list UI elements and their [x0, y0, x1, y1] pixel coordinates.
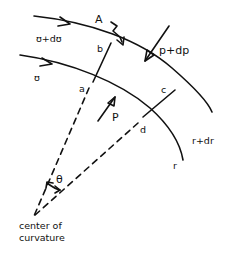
label-radius-inner: r: [173, 160, 177, 171]
label-corner-d: d: [140, 124, 146, 135]
label-center-line2: curvature: [19, 232, 65, 243]
label-corner-c: c: [161, 84, 166, 95]
label-center-line1: center of: [19, 220, 62, 231]
radial-line-a: [34, 88, 89, 216]
label-pressure-outer: p+dp: [159, 44, 189, 57]
label-pressure-inner: P: [112, 111, 119, 124]
streamline-diagram: A ʊ+dʊ ʊ b a c d P p+dp r+dr r θ center …: [0, 0, 234, 261]
label-area: A: [95, 13, 103, 26]
label-corner-a: a: [79, 83, 85, 94]
inner-streamline: [20, 55, 183, 160]
label-corner-b: b: [97, 43, 103, 54]
area-pointer-arrow-icon: [111, 22, 122, 42]
label-outer-velocity: ʊ+dʊ: [36, 33, 62, 44]
label-radius-outer: r+dr: [192, 135, 214, 146]
radial-line-d: [34, 123, 138, 216]
label-angle: θ: [56, 173, 63, 186]
label-inner-velocity: ʊ: [34, 72, 40, 83]
side-dc: [143, 90, 175, 117]
